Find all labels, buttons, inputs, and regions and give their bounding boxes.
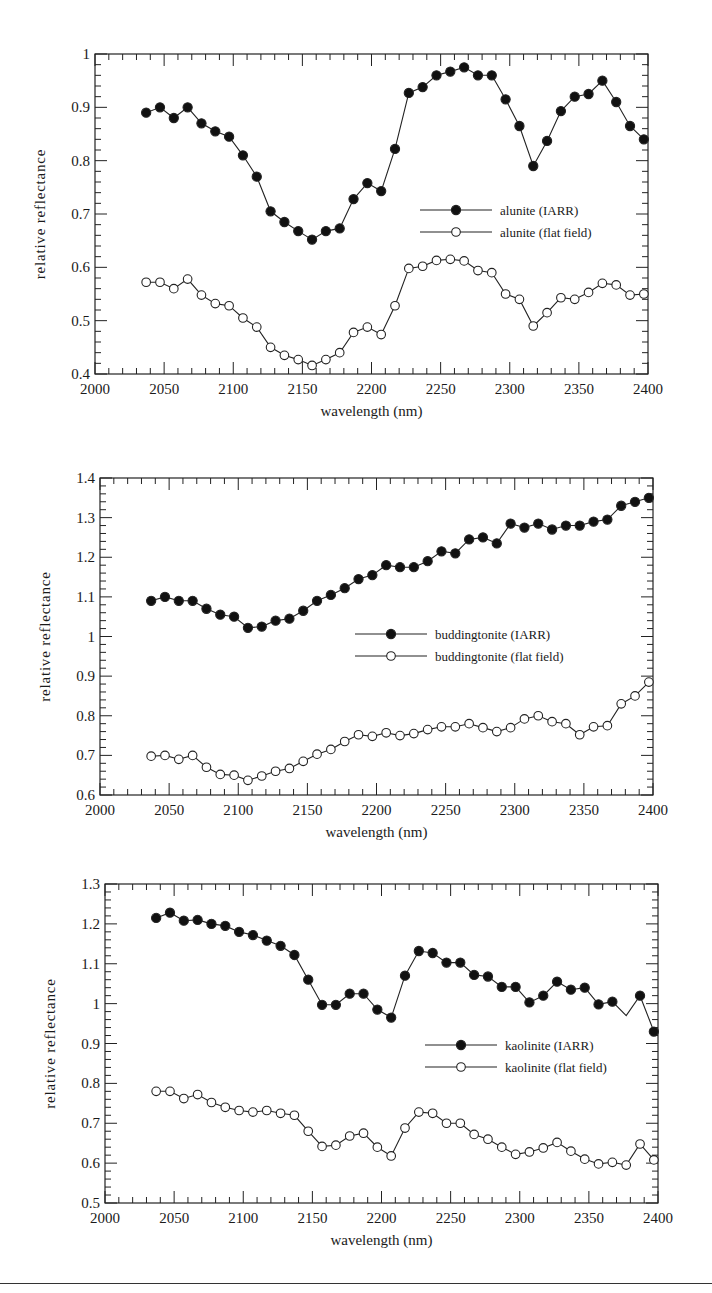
legend-label: kaolinite (IARR) xyxy=(505,1038,593,1053)
filled-marker xyxy=(368,570,377,579)
filled-marker xyxy=(423,557,432,566)
filled-marker xyxy=(317,1000,326,1009)
filled-marker xyxy=(470,970,479,979)
legend-filled-marker-icon xyxy=(386,629,395,638)
x-tick-label: 2050 xyxy=(159,1210,189,1226)
open-marker xyxy=(252,323,261,332)
x-tick-label: 2000 xyxy=(85,802,115,818)
alunite-reflectance-chart: 2000205021002150220022502300235024000.40… xyxy=(0,0,712,420)
open-marker xyxy=(193,1090,202,1099)
open-marker xyxy=(216,770,225,779)
filled-marker xyxy=(442,958,451,967)
open-marker xyxy=(230,771,239,780)
filled-marker xyxy=(534,519,543,528)
filled-marker xyxy=(547,525,556,534)
x-tick-label: 2150 xyxy=(297,1210,327,1226)
open-marker xyxy=(608,1158,617,1167)
filled-marker xyxy=(501,95,510,104)
y-tick-label: 1 xyxy=(88,629,96,645)
open-marker xyxy=(304,1127,313,1136)
open-marker xyxy=(594,1160,603,1169)
filled-marker xyxy=(280,217,289,226)
filled-marker xyxy=(207,919,216,928)
open-marker xyxy=(363,323,372,332)
open-marker xyxy=(474,266,483,275)
open-marker xyxy=(249,1108,258,1117)
open-marker xyxy=(340,737,349,746)
x-tick-label: 2350 xyxy=(569,802,599,818)
open-marker xyxy=(382,728,391,737)
filled-marker xyxy=(409,563,418,572)
legend-filled-marker-icon xyxy=(451,205,460,214)
open-marker xyxy=(327,745,336,754)
x-tick-label: 2050 xyxy=(149,381,179,397)
filled-marker xyxy=(612,97,621,106)
open-marker xyxy=(396,731,405,740)
y-tick-label: 0.4 xyxy=(71,366,90,382)
y-tick-label: 1.1 xyxy=(76,589,95,605)
filled-marker xyxy=(506,519,515,528)
filled-marker xyxy=(497,982,506,991)
filled-marker xyxy=(561,521,570,530)
filled-marker xyxy=(335,224,344,233)
filled-marker xyxy=(594,1000,603,1009)
open-marker xyxy=(534,711,543,720)
open-marker xyxy=(515,295,524,304)
open-marker xyxy=(567,1147,576,1156)
filled-marker xyxy=(252,172,261,181)
x-tick-label: 2350 xyxy=(564,381,594,397)
y-axis-title: relative reflectance xyxy=(42,978,58,1109)
y-tick-label: 0.7 xyxy=(81,1115,100,1131)
open-marker xyxy=(617,700,626,709)
filled-marker xyxy=(395,563,404,572)
filled-marker xyxy=(552,977,561,986)
legend: alunite (IARR)alunite (flat field) xyxy=(420,203,592,240)
open-marker xyxy=(313,750,322,759)
open-marker xyxy=(598,279,607,288)
open-marker xyxy=(359,1129,368,1138)
iarr-series xyxy=(147,493,654,632)
y-tick-label: 0.6 xyxy=(71,259,90,275)
legend-open-marker-icon xyxy=(457,1063,466,1072)
open-marker xyxy=(465,719,474,728)
flat-field-series xyxy=(152,1087,658,1169)
filled-marker xyxy=(221,921,230,930)
y-axis-title: relative reflectance xyxy=(37,571,53,702)
open-marker xyxy=(479,723,488,732)
filled-marker xyxy=(630,497,639,506)
y-tick-label: 0.8 xyxy=(76,708,95,724)
x-tick-label: 2300 xyxy=(500,802,530,818)
filled-marker xyxy=(473,71,482,80)
y-tick-label: 1.3 xyxy=(81,876,100,892)
flat-field-series xyxy=(147,678,653,785)
open-marker xyxy=(197,291,206,300)
filled-marker xyxy=(160,592,169,601)
open-marker xyxy=(529,322,538,331)
filled-marker xyxy=(529,161,538,170)
filled-marker xyxy=(243,623,252,632)
filled-marker xyxy=(276,941,285,950)
filled-marker xyxy=(566,985,575,994)
filled-marker xyxy=(639,135,648,144)
open-marker xyxy=(640,290,649,299)
open-marker xyxy=(183,275,192,284)
open-marker xyxy=(285,764,294,773)
filled-marker xyxy=(525,998,534,1007)
open-marker xyxy=(373,1143,382,1152)
x-tick-label: 2400 xyxy=(643,1210,673,1226)
filled-marker xyxy=(556,106,565,115)
open-marker xyxy=(525,1148,534,1157)
filled-marker xyxy=(515,121,524,130)
y-tick-label: 1 xyxy=(93,996,101,1012)
open-marker xyxy=(170,284,179,293)
y-tick-label: 1.2 xyxy=(76,549,95,565)
filled-marker xyxy=(478,533,487,542)
y-tick-label: 0.6 xyxy=(81,1155,100,1171)
filled-marker xyxy=(216,610,225,619)
open-marker xyxy=(318,1142,327,1151)
filled-marker xyxy=(432,71,441,80)
filled-marker xyxy=(404,88,413,97)
filled-marker xyxy=(183,103,192,112)
filled-marker xyxy=(257,622,266,631)
legend-filled-marker-icon xyxy=(456,1040,465,1049)
